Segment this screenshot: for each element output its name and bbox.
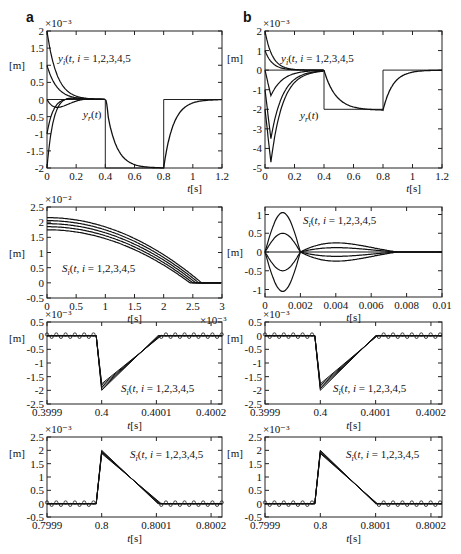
y-tick-label: 0.5 (248, 316, 262, 328)
x-tick-label: 0.8 (313, 519, 327, 531)
x-tick-label: 0.4002 (416, 406, 446, 418)
y-tick-label: 0.5 (30, 262, 44, 274)
y-tick-label: 1 (257, 471, 263, 483)
x-tick-label: 0.002 (288, 299, 313, 311)
series-annotation: yr(t) (82, 108, 102, 123)
y-tick-label: 0.5 (30, 484, 44, 496)
x-tick-label: 0.6 (347, 170, 361, 182)
y-tick-label: 1 (257, 45, 263, 57)
chart-panel-b3: 0.39990.40.40010.40020.50-0.5-1-1.5-2-2.… (227, 308, 446, 431)
y-tick-label: 2.5 (248, 431, 262, 443)
y-tick-label: -5 (253, 162, 263, 174)
y-exponent-label: ×10⁻² (45, 193, 72, 205)
x-tick-label: 1 (410, 170, 416, 182)
y-tick-label: -2 (253, 384, 262, 396)
y-tick-label: 2 (39, 25, 45, 37)
x-axis-label: t[s] (346, 311, 361, 323)
y-tick-label: 0.5 (248, 484, 262, 496)
x-axis-label: t[s] (346, 532, 361, 544)
y-tick-label: -2.5 (245, 398, 263, 410)
x-axis-label: t[s] (127, 419, 142, 431)
y-tick-label: -0.5 (245, 343, 263, 355)
x-tick-label: 0.8001 (141, 519, 171, 531)
y-axis-label: [m] (9, 447, 25, 459)
y-tick-label: -2.5 (27, 398, 45, 410)
y-tick-label: 1 (39, 59, 45, 71)
y-tick-label: -1 (35, 128, 44, 140)
y-tick-label: -1 (253, 84, 262, 96)
x-axis-label: t[s] (406, 182, 421, 194)
y-tick-label: 2.5 (30, 431, 44, 443)
y-tick-label: -1.5 (245, 371, 263, 383)
x-tick-label: 0.4001 (141, 406, 171, 418)
x-tick-label: 0.4002 (196, 406, 226, 418)
y-tick-label: 0 (39, 330, 45, 342)
y-tick-label: 1 (39, 471, 45, 483)
y-axis-label: [m] (227, 447, 243, 459)
y-tick-label: 2 (257, 444, 263, 456)
chart-panel-a3: 0.39990.40.40010.40020.50-0.5-1-1.5-2-2.… (9, 308, 226, 431)
x-tick-label: 0.008 (394, 299, 419, 311)
y-tick-label: 0.5 (248, 227, 262, 239)
y-tick-label: 2 (39, 216, 45, 228)
y-exponent-label: ×10⁻³ (45, 308, 72, 320)
x-tick-label: 0 (44, 170, 50, 182)
y-tick-label: 1 (257, 209, 263, 221)
y-axis-label: [m] (227, 246, 243, 258)
chart-panel-b2: 00.0020.0040.0060.0080.0110.50-0.5-1[m]t… (227, 207, 452, 323)
x-axis-label: t[s] (127, 532, 142, 544)
series-annotation: Si(t, i = 1,2,3,4,5 (121, 382, 195, 397)
x-tick-label: 0.8 (157, 170, 171, 182)
y-tick-label: 0 (257, 64, 263, 76)
x-tick-label: 0.2 (69, 170, 83, 182)
y-axis-label: [m] (227, 52, 243, 64)
y-tick-label: 0 (257, 498, 263, 510)
x-tick-label: 0 (262, 170, 268, 182)
y-tick-label: 1.5 (30, 231, 44, 243)
x-tick-label: 0.4 (98, 170, 112, 182)
x-exponent-label: ×10⁻³ (200, 314, 227, 326)
x-axis-label: t[s] (187, 182, 202, 194)
y-tick-label: 0 (257, 246, 263, 258)
x-tick-label: 0.8 (95, 519, 109, 531)
y-tick-label: 2.5 (30, 201, 44, 213)
series-annotation: yi(t, i = 1,2,3,4,5 (280, 52, 354, 67)
series-annotation: Si(t, i = 1,2,3,4,5 (303, 214, 377, 229)
y-exponent-label: ×10⁻³ (263, 423, 290, 435)
x-tick-label: 3 (219, 300, 225, 312)
y-tick-label: -0.5 (27, 511, 45, 523)
x-tick-label: 1 (190, 170, 196, 182)
y-tick-label: 0.5 (30, 76, 44, 88)
x-tick-label: 0.6 (128, 170, 142, 182)
y-axis-label: [m] (9, 332, 25, 344)
panel-letter-a: a (26, 9, 34, 25)
x-tick-label: 1.5 (128, 300, 142, 312)
y-tick-label: -3 (253, 123, 263, 135)
series-annotation: yi(t, i = 1,2,3,4,5 (57, 52, 131, 67)
x-tick-label: 0.8002 (196, 519, 226, 531)
y-tick-label: -1.5 (27, 145, 45, 157)
x-tick-label: 2 (161, 300, 167, 312)
x-axis-label: t[s] (346, 419, 361, 431)
x-tick-label: 0.4 (313, 406, 327, 418)
y-exponent-label: ×10⁻³ (45, 423, 72, 435)
y-tick-label: -0.5 (27, 343, 45, 355)
axes-frame (47, 207, 222, 298)
x-tick-label: 0.01 (432, 299, 451, 311)
chart-panel-a1: 00.20.40.60.811.221.510.50-0.5-1-1.5-2×1… (9, 17, 229, 194)
y-tick-label: 0.5 (30, 316, 44, 328)
y-tick-label: -1.5 (27, 371, 45, 383)
x-tick-label: 0.4001 (361, 406, 391, 418)
y-tick-label: -0.5 (27, 292, 45, 304)
chart-panel-a4: 0.79990.80.80010.80022.521.510.50-0.5×10… (9, 423, 226, 544)
y-tick-label: -2 (35, 162, 44, 174)
figure-canvas: ab00.20.40.60.811.221.510.50-0.5-1-1.5-2… (0, 0, 461, 554)
y-tick-label: 0 (257, 330, 263, 342)
panel-letter-b: b (243, 9, 252, 25)
y-tick-label: -1 (35, 357, 44, 369)
y-exponent-label: ×10⁻³ (263, 17, 290, 29)
y-exponent-label: ×10⁻³ (263, 308, 290, 320)
x-tick-label: 0.8 (376, 170, 390, 182)
y-axis-label: [m] (227, 332, 243, 344)
y-axis-label: [m] (9, 59, 25, 71)
